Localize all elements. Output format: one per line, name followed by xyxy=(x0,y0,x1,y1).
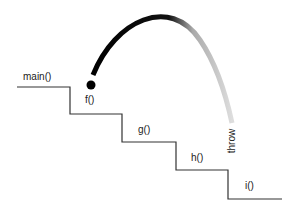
frame-label-i: i() xyxy=(245,181,254,191)
throw-origin-dot xyxy=(87,81,96,90)
call-stack-diagram xyxy=(0,0,293,209)
frame-label-f: f() xyxy=(85,95,94,105)
frame-label-h: h() xyxy=(191,153,203,163)
throw-arc xyxy=(93,17,232,123)
stack-staircase xyxy=(17,87,282,199)
frame-label-g: g() xyxy=(138,125,150,135)
frame-label-main: main() xyxy=(23,72,51,82)
throw-label: throw xyxy=(227,127,237,155)
